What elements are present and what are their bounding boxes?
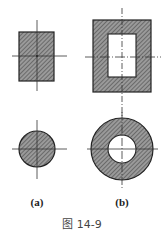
solid-rectangle-section	[12, 20, 67, 91]
figure-canvas: (a) (b) 图 14-9	[0, 0, 164, 234]
figure-caption: 图 14-9	[62, 218, 101, 231]
hollow-rectangle-section	[85, 8, 161, 117]
label-b: (b)	[115, 196, 129, 209]
solid-circle-section	[12, 120, 67, 179]
hollow-circle-section	[87, 112, 158, 190]
centroid-mark	[36, 55, 38, 57]
label-a: (a)	[31, 196, 44, 209]
